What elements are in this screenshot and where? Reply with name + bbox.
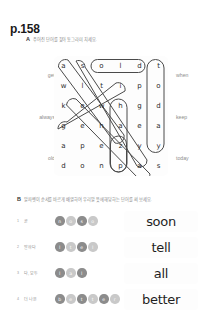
grid-cell: d xyxy=(130,56,149,76)
grid-cell: n xyxy=(92,156,111,176)
item-korean-meaning: 곧 xyxy=(24,218,28,224)
letter-circle[interactable]: l xyxy=(88,242,98,252)
answer-field[interactable]: tell xyxy=(124,237,198,258)
grid-cell: t xyxy=(92,76,111,96)
item-index: 1 xyxy=(17,219,19,223)
grid-cell: a xyxy=(130,156,149,176)
answer-field[interactable]: all xyxy=(124,263,198,284)
grid-cell: e xyxy=(92,136,111,156)
letter-circle-group: n o s o xyxy=(55,216,98,226)
grid-cell: l xyxy=(111,56,130,76)
letter-circle[interactable]: e xyxy=(66,294,76,304)
letter-circle[interactable]: e xyxy=(77,242,87,252)
word-label-always: always xyxy=(39,114,55,120)
letter-circle-group: b e t t e r xyxy=(55,294,120,304)
grid-cell: e xyxy=(73,96,92,116)
section-a-letter: A xyxy=(26,36,30,42)
letter-circle-group: l t e l xyxy=(55,242,98,252)
page-number: p.158 xyxy=(10,22,40,36)
grid-cell: w xyxy=(92,96,111,116)
word-label-keep: keep xyxy=(176,114,187,120)
letter-circle[interactable]: t xyxy=(88,294,98,304)
letter-circle-group: l a l xyxy=(55,268,87,278)
section-b-letter: B xyxy=(17,196,21,202)
item-index: 4 xyxy=(17,297,19,301)
list-item: 3 다, 모두 l a l all xyxy=(0,260,205,286)
grid-cell: p xyxy=(73,136,92,156)
grid-cell: t xyxy=(149,56,168,76)
grid-cell: g xyxy=(130,96,149,116)
list-item: 1 곧 n o s o soon xyxy=(0,208,205,234)
item-korean-meaning: 더 나은 xyxy=(24,296,37,302)
grid-cell: a xyxy=(54,56,73,76)
grid-cell: a xyxy=(54,136,73,156)
answer-field[interactable]: soon xyxy=(124,211,198,232)
section-a-header: A 주어진 단어를 찾아 동그라미 치세요. xyxy=(26,36,97,42)
letter-grid: a s o l d t w l t i p o k e w h g d g e … xyxy=(54,56,168,176)
answer-field[interactable]: better xyxy=(124,289,198,310)
word-label-when: when xyxy=(176,72,188,78)
grid-cell: p xyxy=(130,76,149,96)
grid-cell: h xyxy=(111,96,130,116)
item-index: 2 xyxy=(17,245,19,249)
word-label-today: today xyxy=(176,155,189,161)
grid-cell: s xyxy=(149,156,168,176)
grid-cell: w xyxy=(54,76,73,96)
letter-circle[interactable]: r xyxy=(110,294,120,304)
letter-circle[interactable]: o xyxy=(66,216,76,226)
letter-circle[interactable]: o xyxy=(88,216,98,226)
grid-cell: h xyxy=(92,116,111,136)
letter-circle[interactable]: t xyxy=(77,294,87,304)
grid-cell: l xyxy=(73,76,92,96)
list-item: 4 더 나은 b e t t e r better xyxy=(0,286,205,312)
grid-cell: s xyxy=(73,56,92,76)
letter-circle[interactable]: e xyxy=(99,294,109,304)
grid-cell: d xyxy=(149,96,168,116)
grid-cell: o xyxy=(149,76,168,96)
section-b-instruction: 알파벳이 순서를 바르게 배열하여 우리말 뜻에 해당하는 단어를 써 보세요. xyxy=(24,196,152,202)
grid-cell: o xyxy=(92,56,111,76)
grid-cell: d xyxy=(54,156,73,176)
grid-cell: o xyxy=(73,156,92,176)
grid-cell: a xyxy=(149,116,168,136)
scramble-list: 1 곧 n o s o soon 2 말하다 l t e l tell 3 xyxy=(0,208,205,312)
grid-cell: a xyxy=(111,116,130,136)
letter-circle[interactable]: n xyxy=(55,216,65,226)
section-a-instruction: 주어진 단어를 찾아 동그라미 치세요. xyxy=(33,36,97,42)
grid-cell: g xyxy=(54,116,73,136)
item-korean-meaning: 말하다 xyxy=(24,244,36,250)
list-item: 2 말하다 l t e l tell xyxy=(0,234,205,260)
grid-cell: y xyxy=(130,136,149,156)
grid-cell: e xyxy=(130,116,149,136)
letter-circle[interactable]: l xyxy=(77,268,87,278)
letter-circle[interactable]: l xyxy=(55,242,65,252)
letter-circle[interactable]: a xyxy=(66,268,76,278)
grid-cell: e xyxy=(73,116,92,136)
item-korean-meaning: 다, 모두 xyxy=(24,270,38,276)
worksheet-page: p.158 A 주어진 단어를 찾아 동그라미 치세요. get always … xyxy=(0,0,205,317)
letter-circle[interactable]: b xyxy=(55,294,65,304)
grid-cell: y xyxy=(149,136,168,156)
letter-circle[interactable]: l xyxy=(55,268,65,278)
word-search-card: a s o l d t w l t i p o k e w h g d g e … xyxy=(54,56,168,176)
grid-cell: i xyxy=(111,76,130,96)
item-index: 3 xyxy=(17,271,19,275)
section-b-header: B 알파벳이 순서를 바르게 배열하여 우리말 뜻에 해당하는 단어를 써 보세… xyxy=(17,196,152,202)
grid-cell: z xyxy=(111,136,130,156)
grid-cell: p xyxy=(111,156,130,176)
letter-circle[interactable]: s xyxy=(77,216,87,226)
grid-cell: k xyxy=(54,96,73,116)
letter-circle[interactable]: t xyxy=(66,242,76,252)
